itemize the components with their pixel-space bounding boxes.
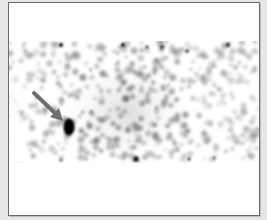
scintigraphy-image: [9, 41, 260, 163]
focal-hot-spot: [64, 119, 75, 136]
arrow-annotation: [34, 93, 63, 121]
scan-uptake-band: [9, 41, 260, 163]
scan-image-panel: Scintigraphy scan (grayscale nuclear med…: [8, 2, 260, 216]
